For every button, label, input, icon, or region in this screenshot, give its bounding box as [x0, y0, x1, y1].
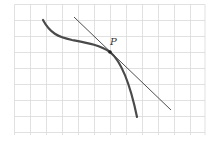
grid — [15, 5, 206, 136]
point-p — [108, 50, 112, 54]
tangent-line — [74, 17, 171, 110]
point-p-label: P — [109, 36, 117, 47]
tangent-diagram: P — [0, 0, 216, 145]
